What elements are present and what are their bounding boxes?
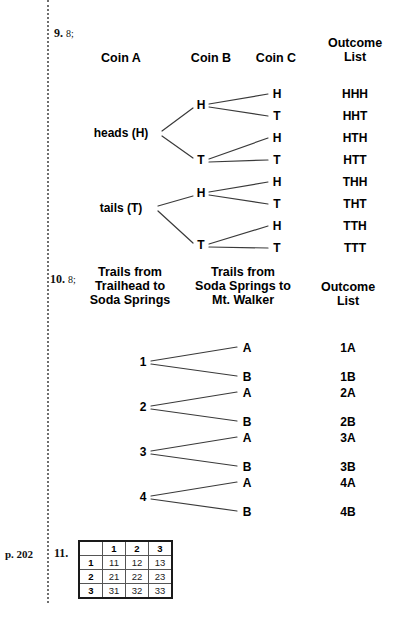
outcome-9-5: THH [343,175,368,189]
problem-11-number: 11. [54,546,68,561]
header-coin-a: Coin A [71,51,171,65]
table-cell-1-2: 12 [126,556,149,570]
outcome-9-7: TTH [343,219,366,233]
table-cell-3-2: 32 [126,584,149,599]
header-trails-soda-springs: Trails from Soda Springs to Mt. Walker [178,265,308,307]
table-cell-3-1: 31 [103,584,126,599]
outcome-9-2: HHT [343,109,368,123]
node-coinb-1: H [197,98,206,112]
node-coinc-1: H [273,87,282,101]
outcome-10-8: 4B [340,505,355,519]
node-trail2-4: B [243,415,252,429]
table-row: 1 11 12 13 [79,556,172,570]
problem-9-index: 9. [54,26,63,40]
outcome-10-6: 3B [340,460,355,474]
header-outcome-list-9: Outcome List [305,36,405,64]
outcome-9-1: HHH [342,87,368,101]
table-cell-2-1: 21 [103,570,126,584]
problem-11-index: 11. [54,546,68,560]
node-trail2-3: A [243,386,252,400]
table-col-header-2: 2 [126,541,149,556]
outcome-10-3: 2A [340,386,355,400]
table-header-row: 1 2 3 [79,541,172,556]
table-row-header-2: 2 [79,570,103,584]
table-cell-2-3: 23 [149,570,173,584]
outcome-9-4: HTT [343,153,366,167]
node-trail-3: 3 [140,445,147,459]
problem-9-answer: 8; [66,28,74,39]
node-trail2-5: A [243,431,252,445]
node-coinb-4: T [197,238,204,252]
table-row: 2 21 22 23 [79,570,172,584]
problem-10-index: 10. [50,272,65,286]
node-heads-h: heads (H) [94,126,149,140]
node-coinb-2: T [197,153,204,167]
node-coinb-3: H [197,186,206,200]
node-trail-4: 4 [140,490,147,504]
node-coinc-7: H [273,219,282,233]
outcome-10-1: 1A [340,341,355,355]
node-trail2-6: B [243,460,252,474]
node-coinc-6: T [273,197,280,211]
worksheet-page: 9. 8; Coin A Coin B Coin C Outcome List … [0,0,410,619]
node-coinc-2: T [273,109,280,123]
node-coinc-3: H [273,131,282,145]
node-trail2-8: B [243,505,252,519]
table-cell-1-1: 11 [103,556,126,570]
table-col-header-3: 3 [149,541,173,556]
table-cell-2-2: 22 [126,570,149,584]
node-coinc-8: T [273,241,280,255]
node-trail2-1: A [243,341,252,355]
node-tails-t: tails (T) [100,201,143,215]
problem-9-number: 9. 8; [54,26,74,41]
outcome-9-6: THT [343,197,366,211]
outcome-9-3: HTH [343,131,368,145]
node-coinc-4: T [273,153,280,167]
node-trail2-2: B [243,370,252,384]
table-row: 3 31 32 33 [79,584,172,599]
outcome-9-8: TTT [344,241,366,255]
page-reference: p. 202 [5,548,33,560]
table-row-header-1: 1 [79,556,103,570]
table-cell-3-3: 33 [149,584,173,599]
header-trails-trailhead: Trails from Trailhead to Soda Springs [75,265,185,307]
table-row-header-3: 3 [79,584,103,599]
node-trail-2: 2 [140,400,147,414]
problem-10-number: 10. 8; [50,272,76,287]
outcome-10-7: 4A [340,476,355,490]
header-outcome-list-10: Outcome List [298,280,398,308]
outcome-10-2: 1B [340,370,355,384]
outcome-matrix-table: 1 2 3 1 11 12 13 2 21 22 23 3 31 32 33 [78,540,173,599]
node-trail2-7: A [243,476,252,490]
table-cell-1-3: 13 [149,556,173,570]
table-corner-cell [79,541,103,556]
node-trail-1: 1 [140,355,147,369]
node-coinc-5: H [273,175,282,189]
dotted-margin-rule [47,0,49,603]
outcome-10-5: 3A [340,431,355,445]
outcome-10-4: 2B [340,415,355,429]
table-col-header-1: 1 [103,541,126,556]
